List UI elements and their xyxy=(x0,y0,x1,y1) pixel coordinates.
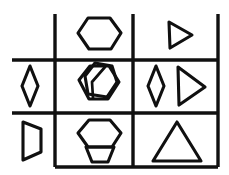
cell-r3c2 xyxy=(78,120,121,162)
cell-r3c3 xyxy=(153,122,201,161)
triangle-right-shape xyxy=(178,67,205,105)
cell-r3c1 xyxy=(23,122,41,160)
hexagon-shape xyxy=(78,18,121,49)
cell-r2c1 xyxy=(22,66,38,106)
quadrilateral-d-shape xyxy=(23,122,41,160)
triangle-right-shape xyxy=(169,22,192,48)
diamond-shape xyxy=(148,66,164,106)
cell-r1c3 xyxy=(169,22,192,48)
cell-r2c2 xyxy=(79,63,119,99)
diamond-shape xyxy=(22,66,38,106)
hexagon-shape xyxy=(78,120,121,147)
cell-r1c2 xyxy=(78,18,121,49)
trapezoid-inverted-shape xyxy=(86,147,114,162)
triangle-up-shape xyxy=(153,122,201,161)
matrix-reasoning-puzzle xyxy=(0,0,229,175)
cell-r2c3 xyxy=(148,66,205,106)
hexagon-overlap-crease xyxy=(92,67,105,98)
puzzle-canvas xyxy=(0,0,229,175)
